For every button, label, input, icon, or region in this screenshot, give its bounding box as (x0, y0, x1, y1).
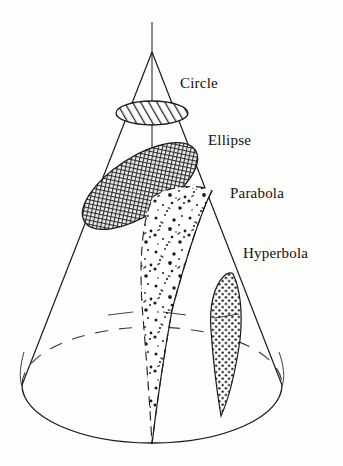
label-parabola: Parabola (230, 185, 284, 202)
conic-sections-figure: Circle Ellipse Parabola Hyperbola (0, 0, 343, 466)
cone-right-rim-tangent (279, 352, 284, 386)
label-circle: Circle (180, 75, 218, 92)
circle-section-shape[interactable] (116, 101, 188, 125)
label-ellipse: Ellipse (208, 132, 251, 149)
section-circle[interactable] (116, 101, 188, 125)
label-hyperbola: Hyperbola (243, 245, 308, 262)
cone-diagram-svg (0, 0, 343, 466)
